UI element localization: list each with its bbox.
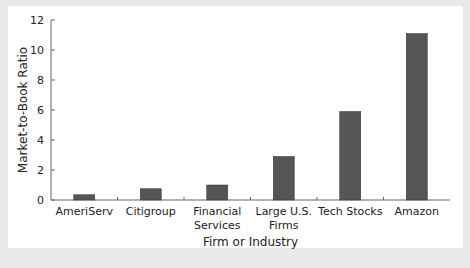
y-tick-label: 6: [37, 104, 44, 117]
bar: [207, 185, 228, 200]
bar: [340, 112, 361, 201]
x-tick-label: Citigroup: [126, 205, 176, 218]
y-tick-label: 4: [37, 134, 44, 147]
y-tick-label: 10: [30, 44, 44, 57]
x-tick-label: Services: [194, 219, 241, 232]
y-tick-label: 0: [37, 194, 44, 207]
x-tick-label: Financial: [193, 205, 241, 218]
y-tick-label: 8: [37, 74, 44, 87]
x-tick-label: AmeriServ: [56, 205, 114, 218]
x-tick-label: Amazon: [395, 205, 439, 218]
x-tick-label: Firms: [269, 219, 299, 232]
bar: [140, 189, 161, 200]
bar: [273, 157, 294, 201]
x-axis-label: Firm or Industry: [203, 235, 298, 249]
bar: [406, 34, 427, 201]
y-tick-label: 12: [30, 14, 44, 27]
x-tick-label: Large U.S.: [256, 205, 312, 218]
x-tick-label: Tech Stocks: [317, 205, 383, 218]
bar: [74, 195, 95, 200]
y-axis-label: Market-to-Book Ratio: [16, 47, 30, 173]
bar-chart: 024681012AmeriServCitigroupFinancialServ…: [0, 0, 470, 268]
y-tick-label: 2: [37, 164, 44, 177]
